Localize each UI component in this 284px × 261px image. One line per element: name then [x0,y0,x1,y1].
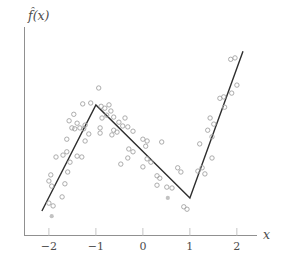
data-point [75,154,79,158]
data-point [144,144,148,148]
x-tick-label: 2 [233,240,240,253]
data-point [229,57,233,61]
x-tick-label: −1 [88,240,104,253]
data-point [131,150,135,154]
data-point [233,56,237,60]
data-point [203,172,207,176]
data-point [145,157,149,161]
data-point [112,115,116,119]
data-point [155,174,159,178]
data-point [131,129,135,133]
data-point [75,121,79,125]
data-point [66,170,70,174]
axes [24,27,257,236]
data-point [145,139,149,143]
data-point [110,133,114,137]
data-point [222,95,226,99]
data-point [49,173,53,177]
data-point [206,128,210,132]
x-tick-label: 1 [186,240,193,253]
data-point [65,137,69,141]
data-point [72,112,76,116]
data-point [235,83,239,87]
data-point [210,156,214,160]
data-point [89,101,93,105]
data-point [123,116,127,120]
data-point [61,153,65,157]
data-point [109,109,113,113]
data-point [87,132,91,136]
data-point [51,204,55,208]
data-point [60,195,64,199]
x-tick-label: −2 [41,240,57,253]
data-point [68,160,72,164]
data-point [117,120,121,124]
scatter-points [47,56,239,219]
data-point [126,125,130,129]
data-point [155,183,159,187]
data-point [170,186,174,190]
x-ticks: −2−1012 [41,228,241,253]
data-point [165,185,169,189]
x-tick-label: 0 [139,240,146,253]
data-point-solid [50,214,54,218]
data-point-solid [166,196,170,200]
data-point [98,126,102,130]
data-point [149,160,153,164]
data-point [119,162,123,166]
data-point [158,176,162,180]
data-point [141,137,145,141]
data-point [67,119,71,123]
data-point [47,201,51,205]
data-point [97,86,101,90]
data-point [70,126,74,130]
data-point [179,170,183,174]
data-point [50,184,54,188]
data-point [81,102,85,106]
data-point [176,166,180,170]
data-point [80,155,84,159]
data-point [230,91,234,95]
data-point [98,131,102,135]
data-point [141,165,145,169]
data-point [73,127,77,131]
data-point [212,122,216,126]
data-point [208,116,212,120]
data-point [65,150,69,154]
data-point [47,179,51,183]
data-point [198,142,202,146]
y-axis-label: f̂(x) [27,7,50,23]
data-point [121,124,125,128]
fit-line [42,51,243,211]
data-point [63,182,67,186]
fit-line-path [42,51,243,211]
data-point [100,116,104,120]
data-point [185,207,189,211]
x-axis-label: x [263,227,270,242]
data-point [103,106,107,110]
data-point [83,139,87,143]
data-point [126,156,130,160]
chart: −2−1012 f̂(x) x [0,0,284,261]
data-point [127,147,131,151]
data-point [160,140,164,144]
data-point [107,103,111,107]
data-point [54,155,58,159]
